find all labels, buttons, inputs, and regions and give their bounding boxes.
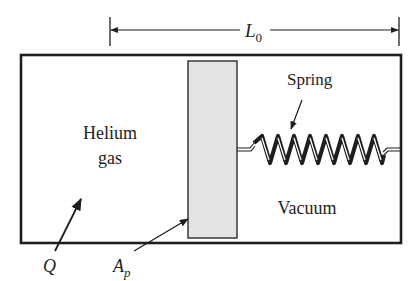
piston-area-arrow bbox=[134, 219, 188, 251]
spring-label: Spring bbox=[287, 70, 333, 89]
region-label-vacuum: Vacuum bbox=[278, 198, 337, 218]
piston bbox=[188, 61, 237, 238]
spring bbox=[237, 136, 401, 163]
dimension-l0: L0 bbox=[110, 17, 399, 46]
heat-label: Q bbox=[43, 256, 56, 276]
dimension-label: L0 bbox=[244, 20, 262, 45]
piston-cylinder-diagram: L0 Spring Helium gas Vacuum Q Ap bbox=[0, 0, 419, 281]
spring-pointer-arrow bbox=[291, 100, 302, 129]
piston-area-label: Ap bbox=[112, 256, 131, 280]
region-label-helium: Helium bbox=[83, 123, 137, 143]
region-label-gas: gas bbox=[98, 148, 122, 168]
